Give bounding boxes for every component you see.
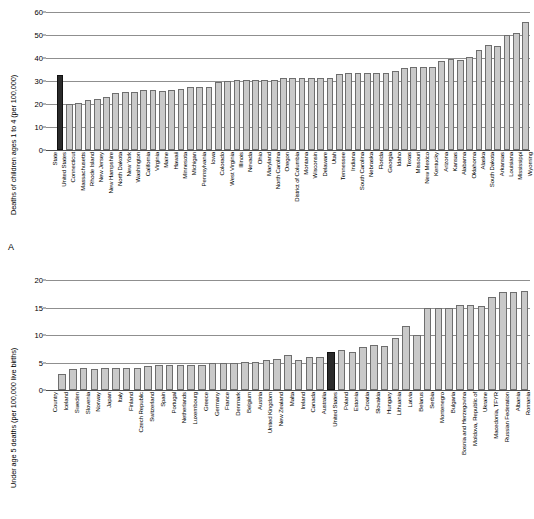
figure-root: Deaths of children ages 1 to 4 (per 100,… — [0, 0, 534, 519]
category-label-cell: Estonia — [347, 391, 358, 509]
category-label-cell: Poland — [336, 391, 347, 509]
category-label-cell: Austria — [250, 391, 261, 509]
category-label-cell: Switzerland — [143, 391, 154, 509]
category-label-cell: State — [46, 151, 55, 251]
category-label-cell: Kentucky — [428, 151, 437, 251]
bar-cell — [512, 12, 521, 150]
bar-cell — [307, 12, 316, 150]
category-label-cell: Denmark — [229, 391, 240, 509]
bar — [187, 365, 195, 390]
bar-cell — [261, 280, 272, 390]
category-label-cell: Nebraska — [363, 151, 372, 251]
bar — [131, 92, 138, 150]
bar-cell — [270, 12, 279, 150]
bar — [308, 78, 315, 150]
category-label-cell: South Carolina — [353, 151, 362, 251]
bar — [66, 104, 73, 150]
category-label-cell: Florida — [372, 151, 381, 251]
bar-cell — [315, 280, 326, 390]
bar-cell — [46, 12, 55, 150]
category-label-cell: Virginia — [148, 151, 157, 251]
bar-cell — [484, 12, 493, 150]
bar — [206, 87, 213, 150]
category-label-cell: Oregon — [279, 151, 288, 251]
panel-a-plot-area: 0102030405060 — [46, 12, 530, 150]
bar-cell — [474, 12, 483, 150]
category-label-cell: New Jersey — [93, 151, 102, 251]
bar — [485, 45, 492, 150]
bar — [401, 68, 408, 150]
category-label-cell: Latvia — [401, 391, 412, 509]
bar-cell — [304, 280, 315, 390]
bar-cell — [493, 12, 502, 150]
bar — [336, 74, 343, 150]
category-label-cell: Montana — [297, 151, 306, 251]
category-label-cell: Maryland — [260, 151, 269, 251]
panel-a-bars — [46, 12, 530, 150]
bar-cell — [363, 12, 372, 150]
category-label-cell: Massachusetts — [74, 151, 83, 251]
bar-cell — [158, 12, 167, 150]
bar-cell — [519, 280, 530, 390]
bar — [355, 73, 362, 150]
y-tick-label-0: 0 — [39, 146, 43, 155]
bar — [521, 291, 529, 390]
panel-a-y-axis-title: Deaths of children ages 1 to 4 (per 100,… — [9, 75, 18, 215]
category-label-cell: Indiana — [344, 151, 353, 251]
category-label-cell: Canada — [304, 391, 315, 509]
category-label-cell: Idaho — [391, 151, 400, 251]
bar-cell — [465, 12, 474, 150]
bar — [438, 61, 445, 150]
y-tick-label-40: 40 — [35, 54, 43, 63]
bar-cell — [204, 12, 213, 150]
category-label-cell: United States — [55, 151, 64, 251]
category-label-cell: Arkansas — [493, 151, 502, 251]
category-label-cell: Wyoming — [521, 151, 530, 251]
bar-cell — [164, 280, 175, 390]
bar-cell — [111, 280, 122, 390]
bar — [445, 308, 453, 391]
y-tick-label-10: 10 — [35, 331, 43, 340]
category-label-cell: District of Columbia — [288, 151, 297, 251]
category-label-cell: Delaware — [316, 151, 325, 251]
category-label-cell: Connecticut — [65, 151, 74, 251]
bar-cell — [65, 12, 74, 150]
bar — [467, 305, 475, 390]
bar — [345, 73, 352, 150]
bar-cell — [502, 12, 511, 150]
category-label-cell: West Virginia — [223, 151, 232, 251]
bar-cell — [100, 280, 111, 390]
category-label-cell: Russian Federation — [498, 391, 509, 509]
bar-cell — [242, 12, 251, 150]
bar-cell — [272, 280, 283, 390]
bar-cell — [487, 280, 498, 390]
panel-a-letter: A — [8, 242, 14, 252]
bar-cell — [132, 280, 143, 390]
bar-cell — [176, 12, 185, 150]
category-label-cell: Arizona — [437, 151, 446, 251]
category-label-cell: Rhode Island — [83, 151, 92, 251]
bar — [263, 360, 271, 390]
category-label-cell: Iceland — [57, 391, 68, 509]
bar-cell — [186, 280, 197, 390]
bar-cell — [372, 12, 381, 150]
bar-cell — [93, 12, 102, 150]
category-label-cell: Wisconsin — [307, 151, 316, 251]
bar — [316, 357, 324, 390]
bar-cell — [207, 280, 218, 390]
category-label-cell: Country — [46, 391, 57, 509]
bar — [123, 368, 131, 390]
category-label-cell: North Dakota — [111, 151, 120, 251]
bar — [241, 362, 249, 390]
category-label-cell: Greece — [197, 391, 208, 509]
category-label-cell: Lithuania — [390, 391, 401, 509]
bar — [494, 46, 501, 150]
bar — [429, 67, 436, 150]
y-tick-label-15: 15 — [35, 303, 43, 312]
bar-cell — [68, 280, 79, 390]
bar-cell — [401, 280, 412, 390]
bar-cell — [336, 280, 347, 390]
bar-cell — [148, 12, 157, 150]
bar — [144, 366, 152, 390]
bar-cell — [347, 280, 358, 390]
